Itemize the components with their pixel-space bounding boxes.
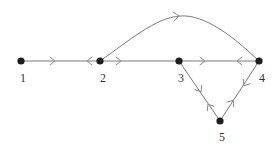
node-4 — [255, 57, 262, 64]
node-5 — [216, 117, 223, 124]
edges — [21, 16, 259, 121]
nodes — [17, 57, 262, 124]
node-2 — [96, 57, 103, 64]
node-3 — [175, 57, 182, 64]
edge-4-5 — [220, 61, 259, 121]
graph-diagram: 1 2 3 4 5 — [0, 0, 276, 152]
node-label-1: 1 — [20, 71, 26, 85]
node-1 — [17, 57, 24, 64]
node-label-3: 3 — [178, 71, 184, 85]
node-label-5: 5 — [219, 130, 225, 144]
edge-2-4-arc — [100, 16, 259, 61]
node-label-4: 4 — [259, 71, 265, 85]
node-label-2: 2 — [100, 71, 106, 85]
